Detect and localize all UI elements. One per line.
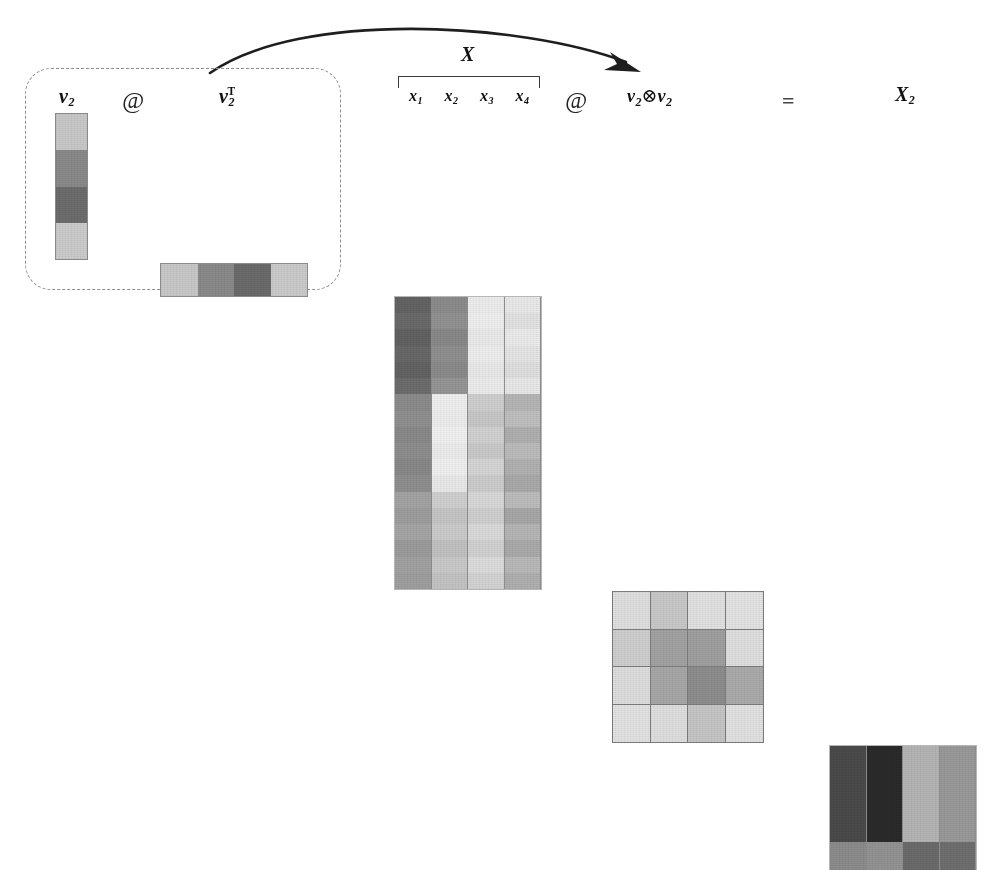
outer-product-label: v2⊗v2 — [627, 86, 672, 108]
matrix-X-band — [505, 524, 541, 540]
matrix-X-band — [505, 459, 541, 475]
matrix-X-band — [395, 508, 431, 524]
matrix-X-band — [468, 508, 504, 524]
matrix-X-band — [505, 378, 541, 394]
matrix-X-band — [432, 557, 468, 573]
v2-cell — [56, 150, 87, 186]
matrix-X-band — [432, 329, 468, 345]
matrix-X-band — [432, 362, 468, 378]
matrix-X-band — [505, 297, 541, 313]
matrix-X-band — [505, 557, 541, 573]
matrix-X-band — [505, 508, 541, 524]
matrix-X-band — [505, 427, 541, 443]
otimes-icon: ⊗ — [642, 85, 658, 106]
matrix-X-band — [468, 540, 504, 556]
v2-transposed-row-vector — [160, 263, 308, 297]
outer-product-cell — [613, 667, 651, 705]
matrix-X-band — [505, 329, 541, 345]
matrix-X2-column — [940, 746, 977, 870]
matrix-X-column — [432, 297, 469, 589]
matrix-X-band — [468, 378, 504, 394]
matrix-X-band — [432, 427, 468, 443]
outer-product-matrix — [612, 591, 764, 743]
matrix-X2-column — [903, 746, 940, 870]
matrix-X-band — [432, 297, 468, 313]
matrix-X-heatmap — [394, 296, 542, 590]
matrix-X-band — [468, 492, 504, 508]
matrix-X-band — [468, 459, 504, 475]
outer-product-cell — [726, 667, 764, 705]
matrix-X-band — [395, 329, 431, 345]
matrix-X-band — [505, 362, 541, 378]
matrix-X-label: X — [461, 44, 474, 64]
matrix-X-column — [395, 297, 432, 589]
matrix-X-band — [432, 313, 468, 329]
matrix-X-band — [505, 313, 541, 329]
outer-product-cell — [688, 630, 726, 668]
matrix-X-band — [468, 443, 504, 459]
outer-label-right: v — [657, 86, 665, 106]
outer-product-cell — [651, 667, 689, 705]
matrix-X-band — [395, 459, 431, 475]
v2-cell — [56, 114, 87, 150]
matrix-X-band — [468, 346, 504, 362]
matrix-X-band — [505, 443, 541, 459]
outer-product-cell — [651, 705, 689, 743]
matrix-X-band — [468, 475, 504, 491]
matrix-X-band — [432, 573, 468, 589]
outer-label-left: v — [627, 86, 635, 106]
matmul-operator-right: @ — [565, 88, 587, 112]
matmul-operator-right-glyph: @ — [565, 87, 587, 113]
outer-product-cell — [651, 592, 689, 630]
matrix-X2-band — [867, 842, 903, 870]
matrix-X-band — [505, 394, 541, 410]
matrix-X-band — [432, 524, 468, 540]
v2-label-text: v — [59, 85, 68, 107]
matrix-X-band — [505, 346, 541, 362]
v2t-cell — [161, 264, 198, 296]
matrix-X-band — [505, 573, 541, 589]
matrix-X-band — [395, 573, 431, 589]
v2-cell — [56, 223, 87, 259]
v2-column-vector — [55, 113, 88, 260]
matrix-X-band — [432, 411, 468, 427]
v2-transposed-label: v2T — [219, 86, 242, 108]
outer-product-cell — [613, 705, 651, 743]
matrix-X-band — [432, 459, 468, 475]
matrix-X-band — [505, 492, 541, 508]
matrix-X-band — [395, 378, 431, 394]
matrix-X-band — [395, 394, 431, 410]
outer-product-cell — [726, 592, 764, 630]
matrix-X-column-header: x3 — [469, 88, 505, 106]
matrix-X-column-headers: x1 x2 x3 x4 — [398, 88, 540, 106]
outer-product-cell — [688, 592, 726, 630]
matrix-X-band — [468, 524, 504, 540]
matrix-X-band — [395, 443, 431, 459]
matrix-X2-column — [830, 746, 867, 870]
matrix-X-band — [505, 540, 541, 556]
matrix-X-band — [395, 313, 431, 329]
matrix-X-band — [395, 475, 431, 491]
matrix-X-band — [432, 394, 468, 410]
outer-product-cell — [726, 630, 764, 668]
matrix-X-band — [505, 475, 541, 491]
outer-product-cell — [688, 705, 726, 743]
matrix-X-band — [468, 573, 504, 589]
matmul-operator-left-glyph: @ — [122, 87, 144, 113]
outer-product-cell — [688, 667, 726, 705]
matrix-X-band — [395, 540, 431, 556]
v2t-label-superscript: T — [227, 86, 235, 98]
matrix-X-band — [432, 346, 468, 362]
matrix-X-band — [395, 427, 431, 443]
matrix-X-band — [395, 362, 431, 378]
matrix-X-band — [468, 411, 504, 427]
v2t-cell — [198, 264, 235, 296]
equals-operator: = — [782, 90, 795, 112]
outer-product-cell — [726, 705, 764, 743]
matrix-X-label-text: X — [461, 43, 474, 65]
outer-product-cell — [613, 630, 651, 668]
matrix-X-band — [468, 313, 504, 329]
matrix-X-column-header: x2 — [434, 88, 470, 106]
matrix-X-column-header: x4 — [505, 88, 541, 106]
matrix-X-band — [432, 378, 468, 394]
